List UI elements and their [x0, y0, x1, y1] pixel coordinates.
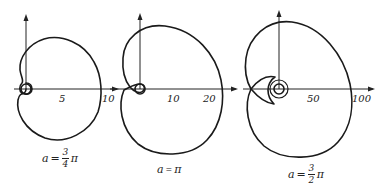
fig3-caption-variable: a	[288, 169, 295, 180]
fig3-y-arrow-icon	[277, 10, 282, 17]
fig1-tick-5: 5	[59, 94, 65, 104]
fig1-tick-10: 10	[102, 94, 115, 104]
fig1-caption-numerator: 3	[62, 148, 68, 157]
diagram-stage: 5 10 10 20 50 100 a = 3 4 π a = π a = 3 …	[0, 0, 386, 191]
fig2-caption-pi: π	[174, 164, 181, 175]
fig3-caption: a = 3 2 π	[288, 164, 324, 185]
fig3-caption-equals: =	[297, 169, 306, 180]
fig2-tick-10: 10	[167, 94, 180, 104]
fig3-tick-100: 100	[352, 94, 371, 104]
fig1-caption-denominator: 4	[62, 160, 68, 169]
fig3-tick-50: 50	[307, 94, 320, 104]
fig3-inner-lobe	[251, 77, 275, 104]
fig2-caption: a = π	[157, 164, 182, 175]
fig2-caption-equals: =	[166, 166, 173, 174]
fig1-caption-pi: π	[71, 153, 78, 164]
fig3-caption-pi: π	[317, 169, 324, 180]
figure-3-plot	[243, 10, 375, 157]
fig2-y-arrow-icon	[138, 13, 143, 20]
fig3-x-arrow-icon	[368, 87, 375, 92]
figure-2-plot	[110, 13, 238, 154]
fig3-caption-fraction: 3 2	[308, 164, 315, 185]
fig1-caption-fraction: 3 4	[62, 148, 69, 169]
fig1-caption: a = 3 4 π	[42, 148, 78, 169]
fig2-tick-20: 20	[203, 94, 216, 104]
fig1-caption-variable: a	[42, 153, 49, 164]
fig3-caption-numerator: 3	[308, 164, 314, 173]
fig2-caption-variable: a	[157, 164, 164, 175]
fig1-caption-equals: =	[51, 153, 60, 164]
fig1-y-arrow-icon	[24, 14, 29, 21]
fig3-caption-denominator: 2	[308, 176, 314, 185]
fig2-x-arrow-icon	[231, 87, 238, 92]
figure-1-plot	[14, 14, 119, 140]
fig2-curve	[121, 26, 223, 154]
